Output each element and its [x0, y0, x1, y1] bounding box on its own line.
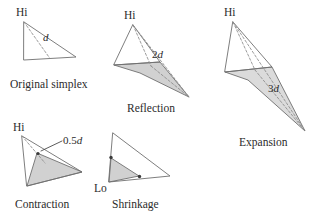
expansion-shaded-region: [225, 67, 305, 131]
panel-original-simplex: Hi d Original simplex: [10, 6, 88, 91]
panel-shrinkage: Lo Shrinkage: [94, 133, 170, 211]
expansion-original-triangle: [225, 22, 272, 72]
shrinkage-caption: Shrinkage: [112, 198, 159, 211]
panel-reflection: Hi 2d Reflection: [114, 9, 189, 114]
simplex-operations-figure: Hi d Original simplex Hi 2d Reflection: [0, 0, 318, 216]
shrinkage-midpoint-dot-bottom: [138, 175, 141, 178]
original-simplex-triangle: [24, 22, 76, 60]
original-simplex-measure-label: d: [43, 31, 49, 43]
panel-contraction: Hi 0.5d Contraction: [13, 121, 83, 210]
original-simplex-caption: Original simplex: [10, 78, 88, 91]
contraction-shaded-region: [27, 153, 82, 186]
shrinkage-midpoint-dot-left: [109, 156, 112, 159]
original-simplex-vertex-label: Hi: [16, 6, 28, 18]
panel-expansion: Hi 3d Expansion: [224, 6, 305, 149]
figure-canvas: Hi d Original simplex Hi 2d Reflection: [0, 0, 318, 216]
reflection-vertex-label: Hi: [124, 9, 136, 21]
reflection-shaded-region: [114, 62, 189, 97]
contraction-leader-line: [41, 141, 62, 151]
contraction-measure-label: 0.5d: [63, 134, 83, 146]
contraction-caption: Contraction: [15, 198, 70, 210]
expansion-measure-label: 3d: [268, 82, 280, 94]
expansion-dashed-median: [233, 22, 255, 70]
expansion-caption: Expansion: [239, 136, 288, 149]
reflection-measure-label: 2d: [152, 48, 164, 60]
contraction-vertex-dot: [36, 152, 39, 155]
shrinkage-shaded-region: [109, 158, 139, 182]
reflection-dashed-long: [133, 25, 189, 97]
expansion-vertex-label: Hi: [224, 6, 236, 18]
shrinkage-vertex-label: Lo: [94, 182, 107, 194]
contraction-vertex-label: Hi: [13, 121, 25, 133]
reflection-caption: Reflection: [127, 102, 175, 114]
